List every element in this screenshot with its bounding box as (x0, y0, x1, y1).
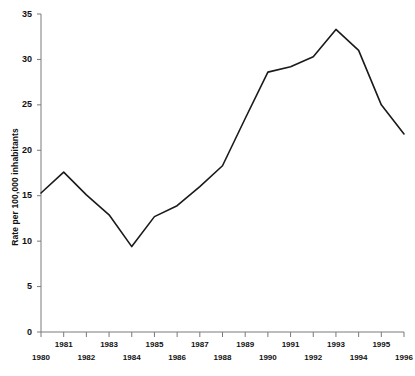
y-axis-ticks (37, 14, 41, 332)
y-axis-tick-label: 25 (6, 100, 32, 109)
x-axis-tick-label: 1987 (180, 341, 220, 349)
x-axis-tick-label: 1996 (384, 354, 415, 362)
x-axis-tick-label: 1995 (361, 341, 401, 349)
x-axis-tick-label: 1994 (339, 354, 379, 362)
x-axis-tick-label: 1993 (316, 341, 356, 349)
x-axis-tick-label: 1992 (293, 354, 333, 362)
y-axis-tick-label: 30 (6, 55, 32, 64)
axis-lines (41, 14, 404, 332)
plot-area (0, 0, 415, 376)
x-axis-tick-label: 1983 (89, 341, 129, 349)
line-chart: Rate per 100,000 inhabitants 05101520253… (0, 0, 415, 376)
x-axis-tick-label: 1981 (44, 341, 84, 349)
x-axis-tick-label: 1985 (134, 341, 174, 349)
y-axis-tick-label: 20 (6, 146, 32, 155)
x-axis-tick-label: 1989 (225, 341, 265, 349)
y-axis-tick-label: 0 (6, 328, 32, 337)
x-axis-ticks (41, 332, 404, 337)
x-axis-tick-label: 1990 (248, 354, 288, 362)
y-axis-tick-label: 15 (6, 191, 32, 200)
y-axis-tick-label: 5 (6, 282, 32, 291)
x-axis-tick-label: 1988 (203, 354, 243, 362)
x-axis-tick-label: 1991 (271, 341, 311, 349)
y-axis-tick-label: 10 (6, 237, 32, 246)
data-series-line (41, 29, 404, 246)
y-axis-tick-label: 35 (6, 10, 32, 19)
x-axis-tick-label: 1982 (66, 354, 106, 362)
x-axis-tick-label: 1984 (112, 354, 152, 362)
x-axis-tick-label: 1986 (157, 354, 197, 362)
x-axis-tick-label: 1980 (21, 354, 61, 362)
